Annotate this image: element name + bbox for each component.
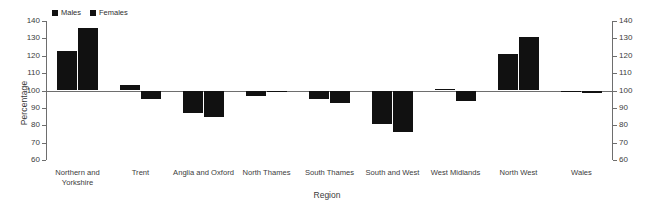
bar-group	[298, 21, 361, 160]
legend-swatch-icon	[52, 10, 58, 16]
y-tick-label-left-120: 120	[27, 52, 40, 60]
y-tick-right-70	[613, 143, 617, 144]
y-tick-label-right-140: 140	[619, 17, 632, 25]
y-tick-label-right-110: 110	[619, 69, 632, 77]
bar-females-0	[78, 28, 98, 91]
legend-item-females: Females	[90, 9, 128, 17]
bar-group	[46, 21, 109, 160]
bar-males-3	[246, 91, 266, 96]
y-tick-label-right-120: 120	[619, 52, 632, 60]
y-tick-left-60	[42, 160, 46, 161]
bar-group	[424, 21, 487, 160]
bar-group	[109, 21, 172, 160]
legend-item-males: Males	[52, 9, 81, 17]
bar-females-2	[204, 91, 224, 117]
y-tick-label-left-80: 80	[31, 121, 40, 129]
y-tick-label-left-140: 140	[27, 17, 40, 25]
bar-males-8	[561, 91, 581, 93]
y-tick-label-right-80: 80	[619, 121, 628, 129]
bar-males-6	[435, 89, 455, 91]
legend-label: Males	[61, 9, 81, 17]
bar-males-2	[183, 91, 203, 114]
y-tick-label-left-90: 90	[31, 104, 40, 112]
bar-males-7	[498, 54, 518, 90]
x-axis-title: Region	[0, 190, 654, 200]
bar-females-3	[267, 91, 287, 92]
bar-females-1	[141, 91, 161, 100]
y-tick-label-left-130: 130	[27, 34, 40, 42]
bar-group	[361, 21, 424, 160]
bar-females-8	[582, 91, 602, 94]
y-tick-label-right-90: 90	[619, 104, 628, 112]
legend-label: Females	[99, 9, 128, 17]
y-tick-label-left-60: 60	[31, 156, 40, 164]
y-tick-right-90	[613, 108, 617, 109]
x-category-label: Wales	[544, 168, 619, 178]
y-tick-label-left-110: 110	[27, 69, 40, 77]
bar-males-5	[372, 91, 392, 124]
bar-females-7	[519, 37, 539, 91]
bar-group	[550, 21, 613, 160]
bar-males-0	[57, 51, 77, 91]
y-tick-right-80	[613, 125, 617, 126]
bar-group	[235, 21, 298, 160]
bar-groups	[46, 21, 613, 160]
bar-group	[487, 21, 550, 160]
y-tick-right-140	[613, 21, 617, 22]
bar-males-1	[120, 85, 140, 90]
bar-females-6	[456, 91, 476, 101]
y-tick-right-60	[613, 160, 617, 161]
chart-legend: MalesFemales	[52, 9, 128, 17]
y-tick-label-right-60: 60	[619, 156, 628, 164]
bar-females-4	[330, 91, 350, 103]
bar-females-5	[393, 91, 413, 133]
bar-males-4	[309, 91, 329, 100]
y-tick-right-110	[613, 73, 617, 74]
plot-area: 1401401301301201201101101001009090808070…	[46, 21, 613, 160]
y-tick-right-120	[613, 56, 617, 57]
y-tick-label-right-70: 70	[619, 139, 628, 147]
bar-group	[172, 21, 235, 160]
y-tick-label-right-100: 100	[619, 87, 632, 95]
y-tick-right-100	[613, 91, 617, 92]
y-tick-label-left-70: 70	[31, 139, 40, 147]
y-tick-label-right-130: 130	[619, 34, 632, 42]
legend-swatch-icon	[90, 10, 96, 16]
y-tick-label-left-100: 100	[27, 87, 40, 95]
chart-container: Percentage MalesFemales 1401401301301201…	[0, 0, 654, 206]
y-tick-right-130	[613, 38, 617, 39]
